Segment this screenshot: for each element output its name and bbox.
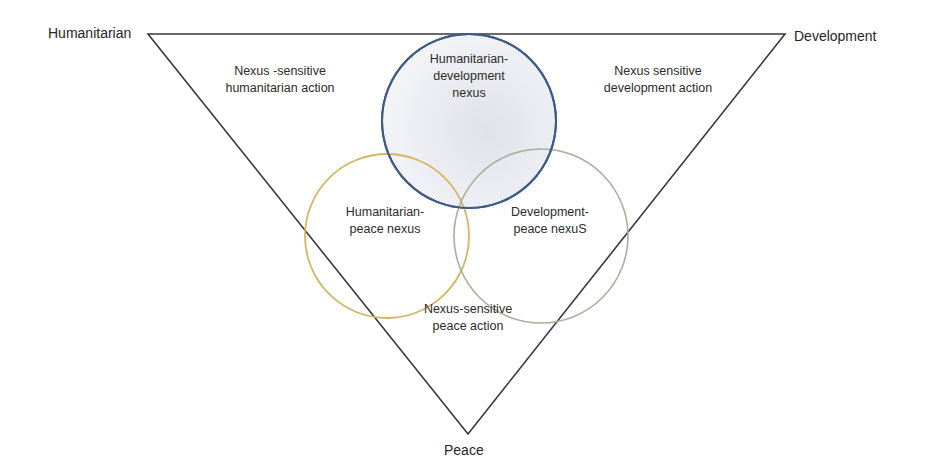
region-label-development-action: Nexus sensitive development action bbox=[588, 63, 728, 97]
vertex-label-development: Development bbox=[794, 28, 877, 44]
circle-label-humanitarian-development: Humanitarian- development nexus bbox=[409, 51, 529, 102]
region-label-humanitarian-action: Nexus -sensitive humanitarian action bbox=[210, 63, 350, 97]
region-label-line: humanitarian action bbox=[210, 80, 350, 97]
circle-label-line: Humanitarian- bbox=[325, 204, 445, 221]
region-label-line: Nexus sensitive bbox=[588, 63, 728, 80]
region-label-peace-action: Nexus-sensitive peace action bbox=[398, 301, 538, 335]
circle-label-line: Humanitarian- bbox=[409, 51, 529, 68]
circle-label-line: peace nexuS bbox=[490, 221, 610, 238]
circle-label-line: peace nexus bbox=[325, 221, 445, 238]
circle-label-line: development bbox=[409, 68, 529, 85]
vertex-label-peace: Peace bbox=[444, 442, 484, 458]
circle-label-line: Development- bbox=[490, 204, 610, 221]
circle-label-development-peace: Development- peace nexuS bbox=[490, 204, 610, 238]
circle-label-humanitarian-peace: Humanitarian- peace nexus bbox=[325, 204, 445, 238]
vertex-label-humanitarian: Humanitarian bbox=[48, 25, 131, 41]
region-label-line: Nexus -sensitive bbox=[210, 63, 350, 80]
region-label-line: peace action bbox=[398, 318, 538, 335]
region-label-line: Nexus-sensitive bbox=[398, 301, 538, 318]
region-label-line: development action bbox=[588, 80, 728, 97]
circle-label-line: nexus bbox=[409, 85, 529, 102]
